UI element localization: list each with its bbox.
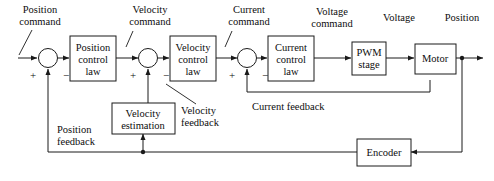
block-label-velocity-control-law-line1: Velocity — [176, 42, 212, 53]
block-diagram-figure: + − + − + − Position control law Velocit… — [0, 0, 494, 181]
block-motor: Motor — [415, 44, 456, 74]
label-voltage-command-line1: Voltage — [316, 6, 348, 17]
label-velocity-command-line1: Velocity — [133, 4, 169, 15]
block-label-encoder: Encoder — [367, 147, 402, 158]
leader-current-command — [225, 31, 232, 47]
label-velocity-command: Velocity command — [126, 4, 171, 47]
label-position-command-line2: command — [19, 16, 61, 27]
label-voltage-command-line2: command — [311, 18, 353, 29]
label-voltage: Voltage — [383, 12, 415, 23]
label-current-feedback: Current feedback — [252, 101, 325, 112]
block-pwm-stage: PWM stage — [352, 42, 386, 75]
label-voltage-command: Voltage command — [311, 6, 353, 29]
block-label-position-control-law-line2: control — [78, 54, 108, 65]
sum-circle-current — [238, 49, 257, 68]
block-current-control-law: Current control law — [268, 36, 314, 81]
summing-junction-current-error: + − — [229, 49, 268, 82]
summing-junction-position-error: + − — [30, 49, 69, 82]
label-position-feedback-line2: feedback — [57, 136, 96, 147]
block-label-current-control-law-line1: Current — [275, 42, 307, 53]
block-label-position-control-law-line1: Position — [76, 42, 111, 53]
control-loop-diagram: + − + − + − Position control law Velocit… — [0, 0, 494, 181]
label-velocity-command-line2: command — [129, 16, 171, 27]
label-current-feedback: Current feedback — [252, 101, 325, 112]
sign-minus-current: − — [262, 69, 268, 81]
label-current-command-line1: Current — [233, 4, 265, 15]
block-label-pwm-stage-line1: PWM — [356, 47, 382, 58]
block-label-position-control-law-line3: law — [85, 66, 101, 77]
sign-plus-velocity: + — [130, 69, 136, 81]
label-position-command: Position command — [19, 4, 61, 55]
block-label-velocity-control-law-line2: control — [178, 54, 208, 65]
label-velocity-feedback-line2: feedback — [181, 117, 220, 128]
block-encoder: Encoder — [357, 139, 411, 166]
block-label-current-control-law-line2: control — [276, 54, 306, 65]
block-velocity-control-law: Velocity control law — [170, 36, 216, 81]
block-label-velocity-estimation-line2: estimation — [121, 120, 165, 131]
sign-plus-current: + — [229, 69, 235, 81]
sign-minus-velocity: − — [163, 69, 169, 81]
label-position-command-line1: Position — [23, 4, 58, 15]
block-velocity-estimation: Velocity estimation — [112, 103, 175, 134]
label-position-output: Position — [445, 12, 480, 23]
label-position-feedback: Position feedback — [57, 124, 96, 147]
junction-dot-position-feedback — [141, 150, 145, 154]
leader-velocity-command — [126, 31, 133, 47]
sum-circle-position — [39, 49, 58, 68]
block-label-velocity-control-law-line3: law — [185, 66, 201, 77]
junction-dot-motor-output — [460, 56, 464, 60]
sum-circle-velocity — [139, 49, 158, 68]
label-position-output: Position — [445, 12, 480, 23]
label-voltage: Voltage — [383, 12, 415, 23]
block-position-control-law: Position control law — [70, 36, 116, 81]
label-current-command: Current command — [225, 4, 270, 47]
label-position-feedback-line1: Position — [57, 124, 92, 135]
sign-minus-position: − — [63, 69, 69, 81]
label-velocity-feedback-line1: Velocity — [181, 105, 217, 116]
leader-position-command — [19, 30, 32, 55]
block-label-pwm-stage-line2: stage — [358, 59, 380, 70]
summing-junction-velocity-error: + − — [130, 49, 169, 82]
block-label-motor: Motor — [422, 53, 449, 64]
block-label-velocity-estimation-line1: Velocity — [126, 108, 162, 119]
leader-velocity-feedback — [166, 84, 196, 104]
sign-plus-position: + — [30, 69, 36, 81]
block-label-current-control-law-line3: law — [283, 66, 299, 77]
label-current-command-line2: command — [228, 16, 270, 27]
